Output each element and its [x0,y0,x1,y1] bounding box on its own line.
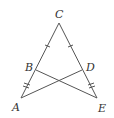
label-a: A [11,101,20,114]
triangle-diagram: C B D A E [0,0,114,118]
segment-be [36,70,97,98]
label-d: D [85,61,95,74]
tick-mark-ba-1 [24,83,30,85]
tick-mark-de-1 [88,83,94,85]
segment-da [21,70,82,98]
label-b: B [24,61,33,74]
label-c: C [55,8,64,21]
label-e: E [97,102,106,115]
